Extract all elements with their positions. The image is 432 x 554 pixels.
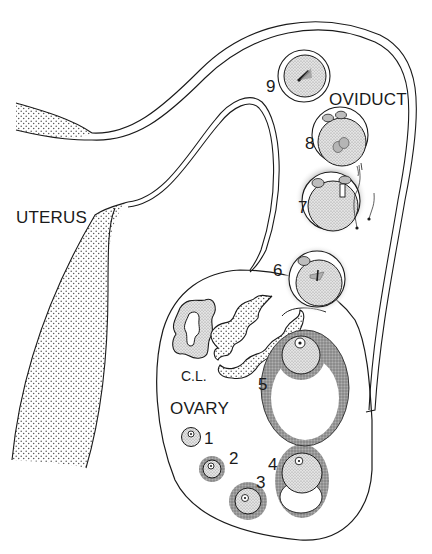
follicle-2 — [199, 456, 225, 482]
follicle-4 — [275, 444, 329, 518]
stage-number-3: 3 — [256, 474, 265, 491]
label-oviduct: OVIDUCT — [329, 91, 407, 108]
follicle-1 — [182, 428, 201, 447]
stage-number-2: 2 — [229, 450, 238, 467]
uterus — [12, 103, 128, 468]
oviduct-tube — [92, 22, 416, 412]
stage-number-6: 6 — [273, 262, 282, 279]
stage-number-7: 7 — [298, 199, 307, 216]
stage-number-1: 1 — [204, 430, 213, 447]
stage-number-8: 8 — [305, 135, 314, 152]
label-ovary: OVARY — [170, 400, 229, 417]
reproductive-tract-diagram — [0, 0, 432, 554]
follicle-5 — [261, 330, 349, 446]
stage-number-9: 9 — [266, 78, 275, 95]
stage-number-5: 5 — [258, 376, 267, 393]
stage-number-4: 4 — [268, 456, 277, 473]
label-corpus-luteum: C.L. — [181, 369, 207, 383]
oocyte-9 — [278, 50, 330, 102]
label-uterus: UTERUS — [16, 209, 87, 226]
oocyte-6 — [283, 245, 351, 313]
